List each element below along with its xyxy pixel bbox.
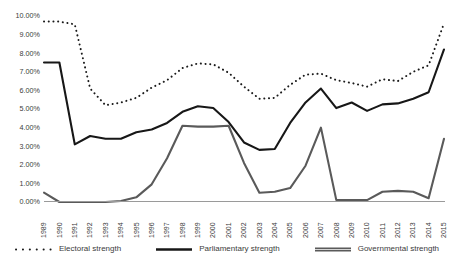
- x-axis-tick-label: 1989: [40, 204, 47, 238]
- legend-label-governmental-strength: Governmental strength: [358, 245, 439, 253]
- legend-item-parliamentary-strength: Parliamentary strength: [155, 245, 279, 254]
- x-axis-tick-label: 2008: [333, 204, 340, 238]
- x-axis-tick-label: 1996: [148, 204, 155, 238]
- legend-swatch-gray-icon: [314, 245, 352, 254]
- y-axis-tick-label: 8.00%: [0, 50, 40, 57]
- x-axis-tick-label: 2011: [379, 204, 386, 238]
- x-axis-tick-label: 1997: [163, 204, 170, 238]
- legend-swatch-dotted-icon: [15, 245, 53, 254]
- x-axis-tick-label: 1999: [194, 204, 201, 238]
- x-axis-tick-label: 2002: [240, 204, 247, 238]
- legend-swatch-solid-icon: [155, 245, 193, 254]
- x-axis-tick-label: 2007: [317, 204, 324, 238]
- x-axis-tick-label: 1990: [56, 204, 63, 238]
- y-axis-tick-label: 1.00%: [0, 180, 40, 187]
- y-axis-tick-label: 3.00%: [0, 143, 40, 150]
- x-axis-tick-label: 1994: [117, 204, 124, 238]
- x-axis-tick-label: 2012: [394, 204, 401, 238]
- legend-label-electoral-strength: Electoral strength: [59, 245, 121, 253]
- y-axis-tick-label: 0.00%: [0, 198, 40, 205]
- x-axis-tick-label: 2004: [271, 204, 278, 238]
- x-axis-tick-label: 1993: [102, 204, 109, 238]
- series-canvas: [44, 16, 444, 202]
- y-axis-tick-label: 6.00%: [0, 87, 40, 94]
- x-axis-tick-label: 2013: [409, 204, 416, 238]
- y-axis-tick-label: 5.00%: [0, 105, 40, 112]
- x-axis-tick-label: 1995: [133, 204, 140, 238]
- x-axis-tick-label: 1992: [86, 204, 93, 238]
- series-line-parliamentary-strength: [44, 49, 444, 149]
- line-chart: 0.00%1.00%2.00%3.00%4.00%5.00%6.00%7.00%…: [0, 0, 454, 264]
- y-axis-tick-label: 7.00%: [0, 68, 40, 75]
- x-axis-tick-label: 2010: [363, 204, 370, 238]
- y-axis-tick-label: 2.00%: [0, 161, 40, 168]
- x-axis-tick-label: 2001: [225, 204, 232, 238]
- x-axis-tick-label: 2009: [348, 204, 355, 238]
- x-axis-tick-label: 2014: [425, 204, 432, 238]
- x-axis-tick-label: 2000: [209, 204, 216, 238]
- x-axis-tick-label: 2015: [440, 204, 447, 238]
- series-line-governmental-strength: [44, 126, 444, 202]
- y-axis-tick-label: 9.00%: [0, 31, 40, 38]
- legend-item-governmental-strength: Governmental strength: [314, 245, 439, 254]
- x-axis-tick-label: 1991: [71, 204, 78, 238]
- legend-label-parliamentary-strength: Parliamentary strength: [199, 245, 279, 253]
- chart-legend: Electoral strength Parliamentary strengt…: [0, 241, 454, 257]
- plot-area: [44, 16, 444, 202]
- y-axis: 0.00%1.00%2.00%3.00%4.00%5.00%6.00%7.00%…: [0, 0, 42, 210]
- x-axis: 1989199019911992199319941995199619971998…: [44, 204, 444, 238]
- x-axis-tick-label: 2003: [256, 204, 263, 238]
- y-axis-tick-label: 4.00%: [0, 124, 40, 131]
- x-axis-line: [44, 201, 445, 202]
- y-axis-tick-label: 10.00%: [0, 12, 40, 19]
- series-line-electoral-strength: [44, 22, 444, 106]
- x-axis-tick-label: 1998: [179, 204, 186, 238]
- x-axis-tick-label: 2005: [286, 204, 293, 238]
- x-axis-tick-label: 2006: [302, 204, 309, 238]
- legend-item-electoral-strength: Electoral strength: [15, 245, 121, 254]
